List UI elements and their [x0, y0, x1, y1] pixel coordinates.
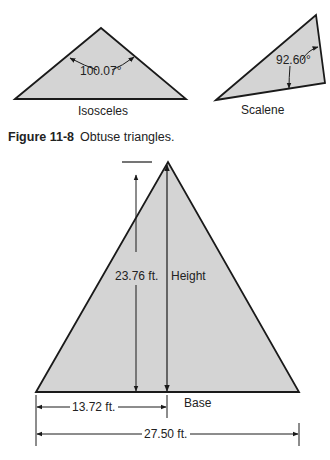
height-value: 23.76 ft.	[115, 269, 158, 283]
scalene-angle: 92.60°	[276, 53, 311, 67]
height-label: Height	[171, 269, 206, 283]
figure-number: Figure 11-8	[8, 130, 74, 144]
figure-caption: Figure 11-8Obtuse triangles.	[8, 130, 175, 144]
scalene-label: Scalene	[241, 103, 285, 117]
isosceles-angle: 100.07°	[80, 64, 122, 78]
full-base-value: 27.50 ft.	[144, 427, 187, 441]
isosceles-label: Isosceles	[78, 104, 128, 118]
half-base-value: 13.72 ft.	[72, 400, 115, 414]
figure-caption-text: Obtuse triangles.	[80, 130, 175, 144]
base-label: Base	[184, 396, 212, 410]
figure-canvas: 100.07° Isosceles 92.60° Scalene Figure …	[0, 0, 330, 460]
